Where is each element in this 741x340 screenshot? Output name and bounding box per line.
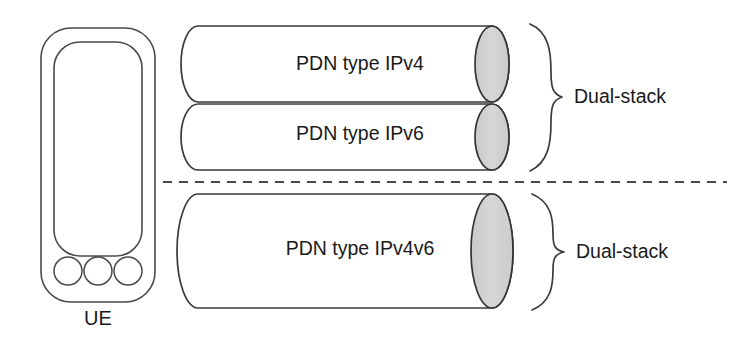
tube-ipv4v6-end-cap (471, 194, 513, 308)
brace-bottom-group: Dual-stack (532, 194, 668, 310)
tube-ipv6: PDN type IPv6 (181, 104, 509, 170)
tube-ipv4v6: PDN type IPv4v6 (177, 194, 513, 308)
device-screen (54, 42, 142, 256)
brace-bottom (532, 194, 564, 310)
brace-top-group: Dual-stack (530, 24, 666, 171)
device-key-center (84, 257, 112, 285)
ue-device-group: UE (41, 28, 155, 329)
pdn-dual-stack-diagram: UE PDN type IPv4 PDN type IPv6 PDN type … (0, 0, 741, 340)
diagram-canvas: UE PDN type IPv4 PDN type IPv6 PDN type … (0, 0, 741, 340)
device-key-right (114, 257, 142, 285)
device-key-left (54, 257, 82, 285)
device-label: UE (84, 307, 112, 329)
brace-bottom-label: Dual-stack (576, 240, 668, 262)
tube-ipv4v6-label: PDN type IPv4v6 (286, 237, 434, 259)
tube-ipv4-label: PDN type IPv4 (296, 52, 424, 74)
tube-ipv6-end-cap (475, 104, 509, 170)
brace-top (530, 24, 562, 171)
tube-ipv4: PDN type IPv4 (181, 26, 509, 102)
tube-ipv6-label: PDN type IPv6 (296, 122, 424, 144)
brace-top-label: Dual-stack (574, 85, 666, 107)
tube-ipv4-end-cap (475, 26, 509, 102)
